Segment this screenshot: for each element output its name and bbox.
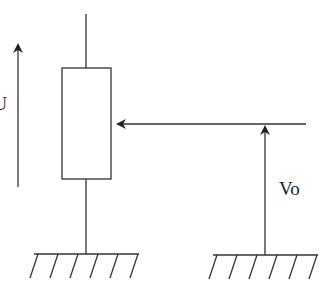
input-voltage-label: U bbox=[0, 94, 7, 114]
left-ground-symbol bbox=[30, 254, 139, 278]
right-ground-symbol bbox=[209, 255, 318, 279]
circuit-diagram: U Vo bbox=[0, 0, 323, 289]
potentiometer-resistor bbox=[62, 68, 111, 179]
output-voltage-label: Vo bbox=[279, 178, 300, 199]
